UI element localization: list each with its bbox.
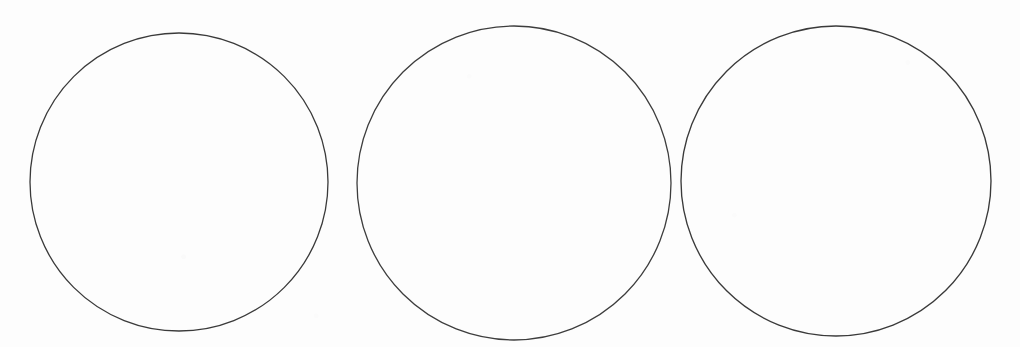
figure-canvas: Three blank circle outlines A plain whit… bbox=[0, 0, 1020, 347]
page-background bbox=[0, 0, 1020, 347]
three-circles-figure: Three blank circle outlines A plain whit… bbox=[0, 0, 1020, 347]
